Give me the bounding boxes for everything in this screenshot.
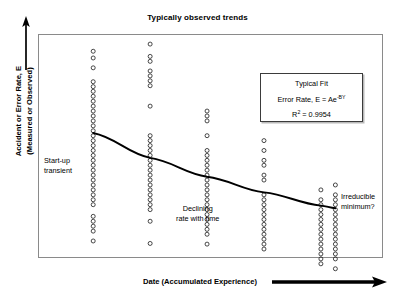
data-point bbox=[333, 267, 337, 271]
fit-box-r-squared: R2 = 0.9954 bbox=[261, 108, 362, 119]
annotation-startup-line2: transient bbox=[44, 166, 72, 176]
y-axis-label-line1: Accident or Error Rate, E bbox=[14, 66, 23, 156]
annotation-startup-transient: Start-up transient bbox=[44, 156, 72, 175]
annotation-declining-line2: rate with time bbox=[176, 214, 219, 224]
annotation-declining-line1: Declining bbox=[176, 204, 219, 214]
r-squared-exponent: 2 bbox=[297, 109, 300, 115]
y-axis-label-line2: (Measured or Observed) bbox=[24, 31, 35, 191]
fit-box-equation: Error Rate, E = Ae-BY bbox=[261, 93, 362, 104]
annotation-irreducible-line2: minimum? bbox=[341, 202, 375, 212]
x-axis-label: Date (Accumulated Experience) bbox=[143, 277, 257, 286]
y-axis-label: Accident or Error Rate, E (Measured or O… bbox=[13, 31, 35, 191]
annotation-irreducible-line1: Irreducible bbox=[341, 192, 375, 202]
annotation-startup-line1: Start-up bbox=[44, 156, 72, 166]
r-squared-value: = 0.9954 bbox=[302, 111, 331, 120]
fit-equation-exponent: -BY bbox=[337, 94, 346, 100]
fit-box-title: Typical Fit bbox=[261, 79, 362, 88]
annotation-irreducible-minimum: Irreducible minimum? bbox=[341, 192, 375, 211]
chart-title: Typically observed trends bbox=[0, 13, 395, 22]
chart-figure: Typically observed trends Accident or Er… bbox=[0, 0, 395, 299]
x-axis-arrow-icon bbox=[272, 276, 387, 287]
annotation-declining-rate: Declining rate with time bbox=[176, 204, 219, 223]
typical-fit-box: Typical Fit Error Rate, E = Ae-BY R2 = 0… bbox=[260, 73, 363, 122]
plot-area bbox=[38, 34, 383, 258]
fit-equation-text: Error Rate, E = Ae bbox=[277, 95, 336, 104]
data-point bbox=[319, 262, 323, 266]
